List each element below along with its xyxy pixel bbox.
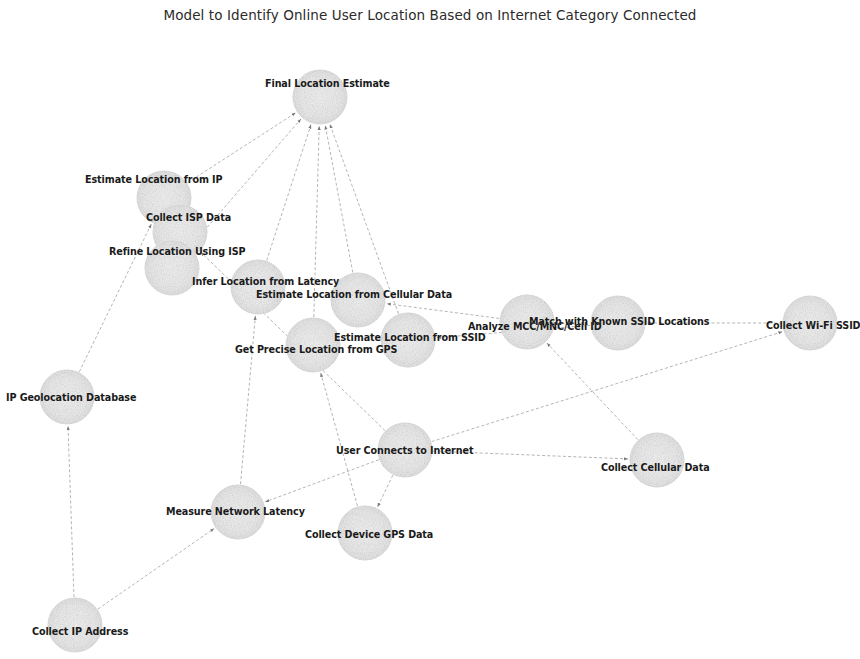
graph-nodes: [40, 70, 837, 652]
graph-edge: [98, 529, 214, 610]
node-label-refine-location-using-isp: Refine Location Using ISP: [109, 247, 245, 257]
node-label-user-connects-to-internet: User Connects to Internet: [336, 446, 473, 456]
node-label-ip-geolocation-database: IP Geolocation Database: [6, 393, 136, 403]
graph-edge: [188, 113, 296, 183]
node-label-collect-cellular-data: Collect Cellular Data: [601, 463, 710, 473]
graph-edge: [321, 373, 358, 506]
node-label-match-with-known-ssid-locations: Match with Known SSID Locations: [529, 317, 709, 327]
graph-edge: [68, 426, 74, 597]
graph-node-collect-ip-address[interactable]: [48, 598, 102, 652]
node-label-infer-location-from-latency: Infer Location from Latency: [192, 277, 339, 287]
graph-edge: [265, 460, 379, 502]
node-label-collect-device-gps-data: Collect Device GPS Data: [305, 530, 433, 540]
graph-node-infer-location-from-latency[interactable]: [231, 260, 285, 314]
node-label-get-precise-location-from-gps: Get Precise Location from GPS: [235, 345, 397, 355]
node-label-estimate-location-from-ssid: Estimate Location from SSID: [334, 333, 486, 343]
node-label-final-location-estimate: Final Location Estimate: [265, 79, 390, 89]
node-label-estimate-location-from-ip: Estimate Location from IP: [85, 175, 222, 185]
node-label-collect-wifi-ssid: Collect Wi-Fi SSID: [766, 321, 860, 331]
diagram-page: Model to Identify Online User Location B…: [0, 0, 860, 659]
node-label-measure-network-latency: Measure Network Latency: [166, 507, 305, 517]
network-graph: [0, 0, 860, 659]
node-label-collect-isp-data: Collect ISP Data: [146, 213, 231, 223]
graph-edge: [325, 126, 353, 273]
graph-edge: [241, 316, 256, 484]
graph-edge: [378, 475, 393, 507]
graph-edge: [267, 125, 311, 261]
node-label-collect-ip-address: Collect IP Address: [32, 627, 128, 637]
graph-node-collect-cellular-data[interactable]: [630, 433, 684, 487]
node-label-estimate-location-from-cellular-data: Estimate Location from Cellular Data: [256, 290, 452, 300]
